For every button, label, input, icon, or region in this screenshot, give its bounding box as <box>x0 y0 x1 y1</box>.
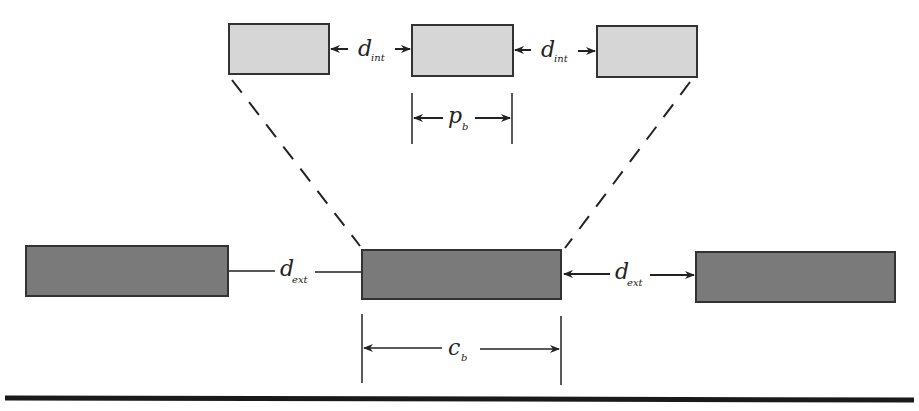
d-int-right-sub: int <box>554 53 569 64</box>
d-ext-left-sub: ext <box>292 274 309 285</box>
c-b-label: c <box>448 335 460 360</box>
c-b-sub: b <box>461 352 467 363</box>
d-int-left-label: d <box>358 36 372 61</box>
beam-bundle-diagram: d int d int p b d ext d ext c b <box>0 0 919 411</box>
p-b-sub: b <box>462 121 468 132</box>
outer-box-center <box>362 250 561 299</box>
ground-line <box>5 398 914 400</box>
outer-box-right <box>696 252 895 302</box>
p-b-label: p <box>448 103 462 128</box>
inner-box-right <box>597 26 697 77</box>
inner-box-left <box>229 24 329 74</box>
d-int-left-sub: int <box>371 52 386 63</box>
d-ext-right-sub: ext <box>627 277 644 288</box>
zoom-line-right <box>565 82 690 248</box>
inner-box-center <box>412 25 513 76</box>
outer-box-left <box>26 246 228 296</box>
d-int-right-label: d <box>541 37 555 62</box>
zoom-line-left <box>232 80 360 246</box>
